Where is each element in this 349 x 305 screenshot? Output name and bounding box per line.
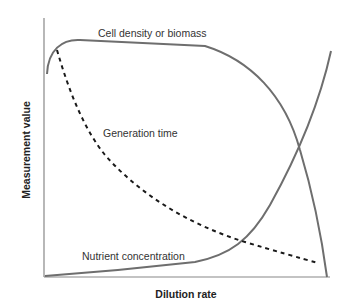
generation-time-curve (57, 50, 318, 263)
generation-time-label: Generation time (103, 127, 178, 139)
nutrient-label: Nutrient concentration (82, 250, 185, 262)
chart: Cell density or biomass Generation time … (0, 0, 349, 305)
cell-density-label: Cell density or biomass (98, 27, 207, 39)
nutrient-concentration-curve (45, 51, 331, 276)
x-axis-label: Dilution rate (155, 288, 216, 300)
y-axis-label: Measurement value (20, 101, 32, 199)
cell-density-curve (47, 40, 327, 277)
